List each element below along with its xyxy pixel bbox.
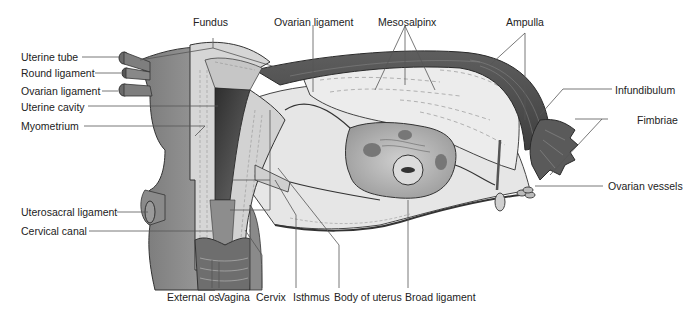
label-uterine-cavity: Uterine cavity	[21, 101, 85, 113]
label-ovarian-ligament-left: Ovarian ligament	[21, 85, 100, 97]
label-fundus: Fundus	[193, 16, 228, 28]
label-mesosalpinx: Mesosalpinx	[378, 16, 436, 28]
label-round-ligament: Round ligament	[21, 67, 95, 79]
label-fimbriae: Fimbriae	[637, 114, 678, 126]
label-uterosacral-ligament: Uterosacral ligament	[21, 206, 117, 218]
label-myometrium: Myometrium	[21, 120, 79, 132]
label-broad-ligament: Broad ligament	[405, 291, 476, 303]
label-cervical-canal: Cervical canal	[21, 225, 87, 237]
label-external-os: External os	[167, 291, 220, 303]
label-uterine-tube: Uterine tube	[21, 51, 78, 63]
label-ovarian-vessels: Ovarian vessels	[608, 180, 683, 192]
label-ampulla: Ampulla	[506, 16, 544, 28]
label-cervix: Cervix	[256, 291, 286, 303]
label-isthmus: Isthmus	[293, 291, 330, 303]
label-vagina: Vagina	[218, 291, 250, 303]
label-body-of-uterus: Body of uterus	[334, 291, 402, 303]
anatomy-diagram: Fundus Ovarian ligament Mesosalpinx Ampu…	[0, 0, 695, 312]
label-ovarian-ligament-top: Ovarian ligament	[274, 16, 353, 28]
label-infundibulum: Infundibulum	[615, 84, 675, 96]
uterus-illustration	[0, 0, 695, 312]
